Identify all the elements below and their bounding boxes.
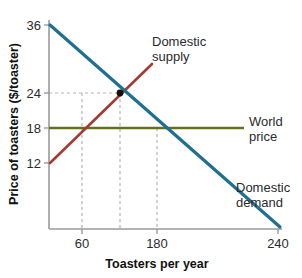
series-label-domestic-supply-line1: Domestic (152, 34, 207, 49)
x-axis-title: Toasters per year (105, 257, 208, 271)
x-tick-label-180: 180 (146, 236, 168, 251)
x-tick-label-60: 60 (75, 236, 89, 251)
y-tick-label-12: 12 (27, 156, 41, 171)
series-label-world-price-line1: World (249, 114, 283, 129)
chart-canvas: 36 24 18 12 60 180 240 Toasters per year… (0, 0, 302, 278)
equilibrium-point (117, 90, 124, 97)
y-tick-label-36: 36 (27, 18, 41, 33)
series-label-world-price-line2: price (249, 129, 277, 144)
series-domestic-supply (50, 64, 152, 163)
series-label-domestic-demand-line1: Domestic (236, 180, 291, 195)
series-label-domestic-demand-line2: demand (236, 195, 283, 210)
y-axis-title: Price of toasters ($/toaster) (7, 43, 21, 205)
y-tick-label-24: 24 (27, 86, 41, 101)
x-tick-label-240: 240 (267, 236, 289, 251)
y-tick-label-18: 18 (27, 121, 41, 136)
series-label-domestic-supply-line2: supply (152, 49, 190, 64)
economics-chart: 36 24 18 12 60 180 240 Toasters per year… (0, 0, 302, 278)
